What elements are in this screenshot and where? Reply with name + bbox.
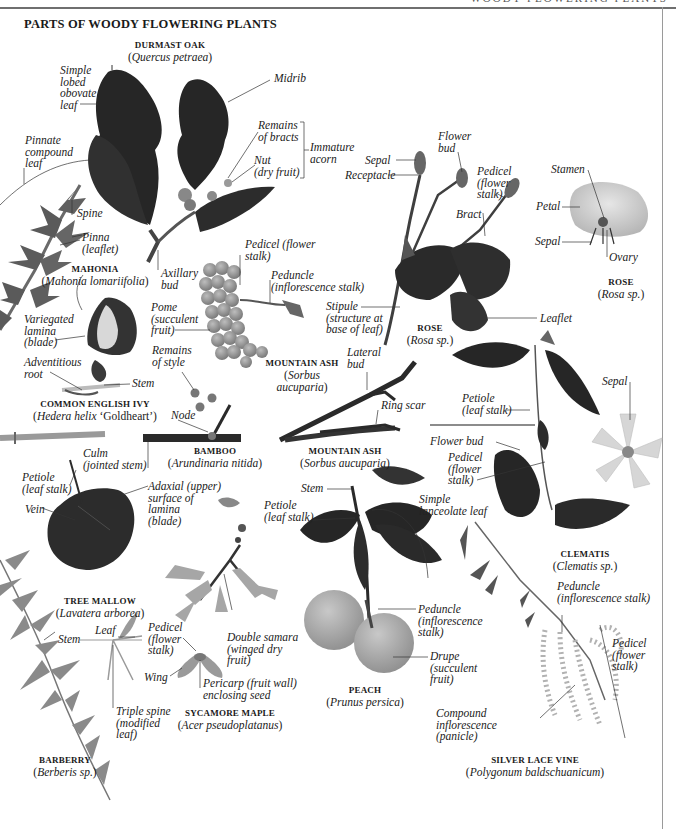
common-name: MAHONIA: [30, 264, 160, 275]
label-wing: Wing: [144, 672, 168, 684]
common-name: BARBERRY: [25, 755, 105, 766]
label-axillary-bud: Axillary bud: [161, 268, 198, 291]
scientific-name: (Sorbus aucuparia): [285, 457, 405, 469]
scientific-name: (Berberis sp.): [25, 766, 105, 778]
scientific-name: (Arundinaria nitida): [160, 457, 270, 469]
label-peduncle-ash: Peduncle (inflorescence stalk): [271, 270, 364, 293]
common-name: ROSE: [590, 277, 652, 288]
common-name: TREE MALLOW: [40, 596, 160, 607]
label-peach-petiole: Petiole (leaf stalk): [264, 500, 314, 523]
scientific-name: (Mahonia lomariifolia): [30, 275, 160, 287]
label-rose-pedicel: Pedicel (flower stalk): [477, 166, 511, 201]
label-remains-of-bracts: Remains of bracts: [258, 120, 299, 143]
label-midrib: Midrib: [274, 73, 306, 85]
label-culm: Culm (jointed stem): [83, 448, 147, 471]
label-bract: Bract: [456, 209, 482, 221]
label-drupe: Drupe (succulent fruit): [430, 651, 477, 686]
label-rose-sepal: Sepal: [365, 155, 391, 167]
caption-rose-stem: ROSE (Rosa sp.): [400, 323, 460, 346]
label-mallow-petiole: Petiole (leaf stalk): [22, 472, 72, 495]
caption-common-english-ivy: COMMON ENGLISH IVY (Hedera helix ‘Goldhe…: [15, 399, 175, 422]
scientific-name: (Clematis sp.): [545, 560, 625, 572]
common-name: BAMBOO: [160, 446, 270, 457]
label-lace-peduncle: Peduncle (inflorescence stalk): [557, 581, 650, 604]
common-name: DURMAST OAK: [100, 40, 240, 51]
scientific-name: (Acer pseudoplatanus): [170, 719, 290, 731]
label-ring-scar: Ring scar: [381, 400, 425, 412]
label-pericarp: Pericarp (fruit wall) enclosing seed: [203, 678, 297, 701]
common-name: PEACH: [320, 685, 410, 696]
common-name: MOUNTAIN ASH: [285, 446, 405, 457]
caption-silver-lace-vine: SILVER LACE VINE (Polygonum baldschuanic…: [445, 755, 625, 778]
label-ivy-stem: Stem: [132, 378, 154, 390]
label-immature-acorn: Immature acorn: [310, 142, 354, 165]
rose-flower-specimen: [562, 170, 648, 257]
caption-mahonia: MAHONIA (Mahonia lomariifolia): [30, 264, 160, 287]
common-name: COMMON ENGLISH IVY: [15, 399, 175, 410]
label-simple-lanceolate-leaf: Simple lanceolate leaf: [419, 494, 487, 517]
label-simple-lobed-leaf: Simple lobed obovate leaf: [60, 65, 96, 111]
label-pedicel-ash: Pedicel (flower stalk): [245, 239, 316, 262]
label-node: Node: [171, 410, 195, 422]
label-adaxial-surface: Adaxial (upper) surface of lamina (blade…: [148, 481, 221, 527]
label-sycamore-pedicel: Pedicel (flower stalk): [148, 622, 182, 657]
scientific-name: (Polygonum baldschuanicum): [445, 766, 625, 778]
label-pinna: Pinna (leaflet): [82, 232, 118, 255]
label-clematis-sepal: Sepal: [602, 376, 628, 388]
label-nut: Nut (dry fruit): [254, 155, 300, 178]
label-pinnate-compound-leaf: Pinnate compound leaf: [25, 135, 73, 170]
label-flower-bud: Flower bud: [438, 131, 471, 154]
label-stipule: Stipule (structure at base of leaf): [326, 301, 383, 336]
label-compound-inflorescence: Compound inflorescence (panicle): [436, 708, 497, 743]
label-clematis-petiole: Petiole (leaf stalk): [462, 393, 512, 416]
label-variegated-lamina: Variegated lamina (blade): [24, 314, 74, 349]
caption-barberry: BARBERRY (Berberis sp.): [25, 755, 105, 778]
caption-mountain-ash-twig: MOUNTAIN ASH (Sorbus aucuparia): [285, 446, 405, 469]
scientific-name: (Rosa sp.): [400, 334, 460, 346]
label-clematis-flower-bud: Flower bud: [430, 436, 483, 448]
label-triple-spine: Triple spine (modified leaf): [116, 706, 171, 741]
caption-bamboo: BAMBOO (Arundinaria nitida): [160, 446, 270, 469]
common-name: MOUNTAIN ASH: [262, 358, 342, 369]
caption-peach: PEACH (Prunus persica): [320, 685, 410, 708]
label-receptacle: Receptacle: [345, 170, 395, 182]
label-leaflet: Leaflet: [540, 313, 572, 325]
caption-sycamore-maple: SYCAMORE MAPLE (Acer pseudoplatanus): [170, 708, 290, 731]
label-spine: Spine: [77, 208, 103, 220]
common-name: CLEMATIS: [545, 549, 625, 560]
label-barberry-stem: Stem: [58, 634, 80, 646]
label-ovary: Ovary: [609, 252, 638, 264]
label-adventitious-root: Adventitious root: [24, 357, 82, 380]
label-barberry-leaf: Leaf: [95, 625, 115, 637]
scientific-name: (Sorbus aucuparia): [262, 369, 342, 393]
label-double-samara: Double samara (winged dry fruit): [227, 632, 298, 667]
label-clematis-pedicel: Pedicel (flower stalk): [448, 452, 482, 487]
caption-rose-flower: ROSE (Rosa sp.): [590, 277, 652, 300]
label-remains-of-style: Remains of style: [152, 345, 192, 368]
scientific-name: (Prunus persica): [320, 696, 410, 708]
mahonia-specimen: [0, 160, 90, 330]
common-name: ROSE: [400, 323, 460, 334]
label-lateral-bud: Lateral bud: [347, 347, 381, 370]
scientific-name: (Quercus petraea): [100, 51, 240, 63]
label-peach-stem: Stem: [301, 483, 323, 495]
scientific-name: (Rosa sp.): [590, 288, 652, 300]
label-peach-peduncle: Peduncle (inflorescence stalk): [418, 604, 483, 639]
label-pome: Pome (succulent fruit): [151, 302, 198, 337]
label-petal: Petal: [536, 201, 560, 213]
scientific-name: (Hedera helix ‘Goldheart’): [15, 410, 175, 422]
common-name: SILVER LACE VINE: [445, 755, 625, 766]
caption-tree-mallow: TREE MALLOW (Lavatera arborea): [40, 596, 160, 619]
caption-mountain-ash-fruit: MOUNTAIN ASH (Sorbus aucuparia): [262, 358, 342, 393]
caption-durmast-oak: DURMAST OAK (Quercus petraea): [100, 40, 240, 63]
common-name: SYCAMORE MAPLE: [170, 708, 290, 719]
caption-clematis: CLEMATIS (Clematis sp.): [545, 549, 625, 572]
label-rose-flower-sepal: Sepal: [535, 236, 561, 248]
label-stamen: Stamen: [551, 164, 585, 176]
scientific-name: (Lavatera arborea): [40, 607, 160, 619]
label-lace-pedicel: Pedicel (flower stalk): [612, 638, 646, 673]
label-vein: Vein: [25, 504, 45, 516]
